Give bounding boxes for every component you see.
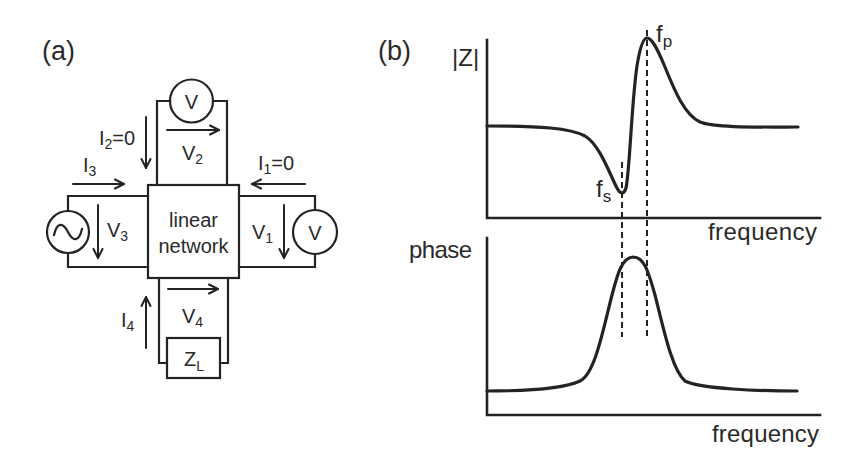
network-box-label-line1: linear [169,209,218,231]
label-v3: V3 [107,219,128,244]
v2-arrow-icon [167,126,219,135]
label-i1: I1=0 [258,152,294,177]
ac-source-icon [47,211,89,253]
phase-plot: phase frequency [409,236,820,447]
i4-arrow-icon [142,297,151,348]
fs-label: fs [596,175,611,206]
voltmeter-right-symbol: V [308,222,322,244]
phase-y-label: phase [409,236,472,263]
v3-arrow-icon [94,205,103,258]
figure: (a) linear network V V2 I2=0 [0,0,852,469]
network-box-outline [148,185,239,278]
phase-curve [487,257,797,391]
port-3-left: I3 V3 [47,154,148,267]
port-4-bottom: ZL V4 I4 [121,278,228,378]
port-1-wires [239,196,315,267]
network-box-label-line2: network [158,235,229,257]
v1-arrow-icon [280,205,289,258]
label-v4: V4 [182,305,203,330]
label-v2: V2 [182,142,203,167]
load-label: ZL [184,348,204,374]
panel-a-label: (a) [42,36,75,66]
label-v1: V1 [252,221,273,246]
i1-arrow-icon [252,180,305,189]
impedance-y-label: |Z| [452,44,479,71]
panel-a: (a) linear network V V2 I2=0 [42,36,337,378]
label-i3: I3 [83,154,97,179]
i2-arrow-icon [142,117,151,168]
v4-arrow-icon [168,285,218,294]
port-1-right: V I1=0 V1 [239,152,337,267]
impedance-plot-axes [487,40,820,218]
impedance-curve [487,38,798,193]
panel-b: (b) |Z| frequency fs fp phase frequency [378,20,820,447]
voltmeter-top-symbol: V [185,91,199,113]
voltmeter-top-icon: V [170,80,213,123]
label-i2: I2=0 [99,127,135,152]
panel-b-label: (b) [378,36,411,66]
fp-label: fp [656,20,672,51]
impedance-x-label: frequency [708,218,817,245]
port-2-top: V V2 I2=0 [99,80,227,186]
label-i4: I4 [121,309,135,334]
voltmeter-right-icon: V [293,210,337,254]
i3-arrow-icon [73,180,124,189]
linear-network-box: linear network [148,185,239,278]
impedance-plot: |Z| frequency fs fp [452,20,820,245]
load-impedance: ZL [167,338,220,378]
phase-x-label: frequency [712,420,819,447]
